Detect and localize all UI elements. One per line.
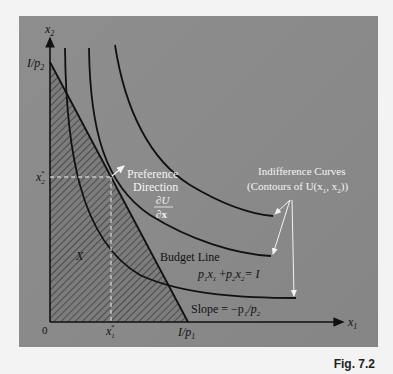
indifference-label-line2: (Contours of U(x1, x2))	[247, 180, 348, 195]
indiff-arrow-3	[292, 200, 294, 296]
origin-label: 0	[42, 324, 48, 336]
figure-caption: Fig. 7.2	[334, 357, 375, 371]
budget-line-label: Budget Line	[160, 250, 220, 264]
utility-diagram: x2 x1 0 I/p2 I/p1 x1* x2* X Preference D…	[0, 0, 393, 374]
preference-label-line1: Preference	[127, 167, 178, 181]
slope-label: Slope = −p1/p2	[191, 302, 261, 318]
budget-equation: p1x1 +p2x2= I	[197, 267, 261, 283]
x-axis-label: x1	[347, 315, 357, 331]
x2-star-label: x2*	[35, 169, 45, 186]
preference-arrow	[112, 166, 124, 176]
x-intercept-label: I/p1	[177, 325, 195, 341]
x1-star-label: x1*	[105, 323, 115, 340]
gradient-numerator: ∂U	[156, 194, 170, 206]
gradient-denominator: ∂x	[156, 208, 167, 220]
indifference-label-line1: Indifference Curves	[258, 165, 345, 177]
y-axis-label: x2	[44, 22, 54, 38]
feasible-set-label: X	[75, 249, 84, 263]
preference-label-line2: Direction	[133, 180, 178, 194]
y-intercept-label: I/p2	[26, 56, 44, 72]
